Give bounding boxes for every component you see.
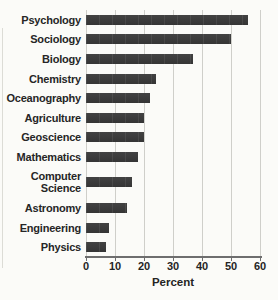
category-label: Agriculture [0,112,86,124]
bar [86,203,127,213]
x-axis-tick-label: 30 [167,261,179,272]
bar-row: Sociology [0,33,260,45]
bar-track [86,74,260,84]
bar-track [86,177,260,187]
category-label: Geoscience [0,131,86,143]
bar-track [86,54,260,64]
bar [86,34,231,44]
x-axis-tick-labels: 0102030405060 [86,261,260,273]
x-axis-tick-label: 40 [196,261,208,272]
category-label: Engineering [0,222,86,234]
bar-row: Biology [0,53,260,65]
category-label: Biology [0,53,86,65]
category-label: Physics [0,241,86,253]
category-label: Mathematics [0,151,86,163]
bar-row: Engineering [0,222,260,234]
bar-track [86,93,260,103]
bar-row: Oceanography [0,92,260,104]
category-label: Astronomy [0,202,86,214]
x-axis-tick-label: 60 [254,261,266,272]
gridline [260,10,261,257]
bar-row: Agriculture [0,112,260,124]
bar-track [86,152,260,162]
bar-chart-figure: Psychology Sociology Biology Chemistry O… [0,0,278,300]
bar-track [86,203,260,213]
x-axis-tick-label: 50 [225,261,237,272]
bar-track [86,242,260,252]
bar-track [86,223,260,233]
category-label: Chemistry [0,73,86,85]
bar-row: Astronomy [0,202,260,214]
bar-row: Mathematics [0,151,260,163]
bar [86,152,138,162]
bar-track [86,132,260,142]
x-axis-tick-label: 0 [83,261,89,272]
bar-track [86,15,260,25]
bar-row: Geoscience [0,131,260,143]
bar-row: Physics [0,241,260,253]
bar [86,132,144,142]
bar [86,74,156,84]
category-label: Psychology [0,14,86,26]
bar [86,223,109,233]
x-axis-tick-label: 20 [138,261,150,272]
bar-track [86,34,260,44]
bar-row: Computer Science [0,170,260,194]
category-label: Sociology [0,33,86,45]
bar [86,54,193,64]
bar-row: Chemistry [0,73,260,85]
category-label: Oceanography [0,92,86,104]
x-axis-title: Percent [86,276,260,288]
bar [86,177,132,187]
bar [86,15,248,25]
bar-row: Psychology [0,14,260,26]
bar-track [86,113,260,123]
bar [86,242,106,252]
bar [86,93,150,103]
bar [86,113,144,123]
category-label: Computer Science [0,170,86,194]
x-axis-tick-label: 10 [109,261,121,272]
bar-rows: Psychology Sociology Biology Chemistry O… [0,10,260,257]
